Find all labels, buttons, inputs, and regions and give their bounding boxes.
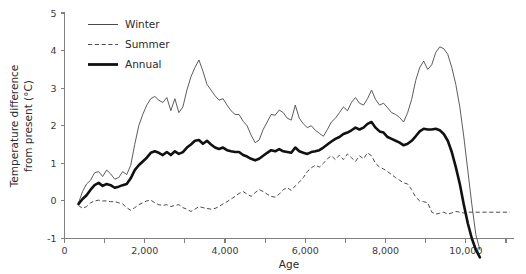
y-axis-title: Temperature difference from present (°C) [8, 65, 34, 189]
y-tick-label: 4 [50, 45, 56, 56]
x-tick-label: 4,000 [211, 245, 238, 256]
series-line-annual [79, 122, 480, 257]
y-tick-label: -1 [47, 233, 56, 244]
x-axis-group: 02,0004,0006,0008,00010,000 [61, 239, 514, 256]
y-axis-group: -1012345 [47, 8, 64, 245]
x-axis-tick-labels: 02,0004,0006,0008,00010,000 [61, 245, 482, 256]
plot-series-group [79, 47, 510, 257]
legend: Winter Summer Annual [88, 18, 170, 70]
y-axis-title-line1: Temperature difference [8, 65, 20, 189]
y-axis-ticks [61, 13, 65, 239]
y-tick-label: 0 [50, 195, 56, 206]
y-axis-title-line2: from present (°C) [22, 80, 34, 172]
y-tick-label: 2 [50, 120, 56, 131]
legend-label-winter: Winter [125, 18, 160, 30]
y-tick-label: 5 [50, 8, 56, 19]
legend-label-annual: Annual [125, 58, 162, 70]
x-tick-label: 8,000 [372, 245, 399, 256]
legend-label-summer: Summer [125, 38, 170, 50]
x-axis-title: Age [279, 258, 299, 270]
y-tick-label: 1 [50, 158, 56, 169]
x-tick-label: 6,000 [292, 245, 319, 256]
chart-figure: -1012345 02,0004,0006,0008,00010,000 Win… [0, 0, 526, 274]
y-axis-tick-labels: -1012345 [47, 8, 56, 245]
chart-canvas: -1012345 02,0004,0006,0008,00010,000 Win… [0, 0, 526, 274]
x-axis-ticks [65, 239, 506, 243]
x-tick-label: 2,000 [131, 245, 158, 256]
y-tick-label: 3 [50, 83, 56, 94]
x-tick-label: 0 [61, 245, 67, 256]
